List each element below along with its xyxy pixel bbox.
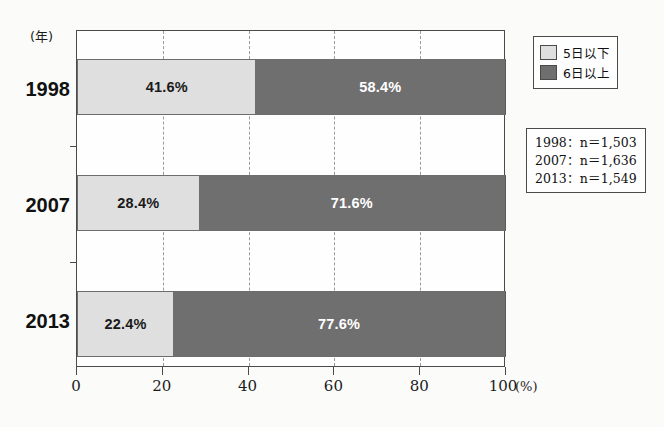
legend-label-5days-or-less: 5日以下 <box>563 43 610 62</box>
x-axis-label-20: 20 <box>152 377 171 395</box>
y-axis-unit-label: (年) <box>30 26 53 45</box>
legend-swatch-light-icon <box>540 45 557 60</box>
sample-size-1998: 1998：n＝1,503 <box>535 134 637 152</box>
bar-label-1998-light: 41.6% <box>146 79 188 95</box>
sample-size-2013: 2013：n＝1,549 <box>535 170 637 188</box>
sample-size-2007: 2007：n＝1,636 <box>535 152 637 170</box>
x-axis-label-0: 0 <box>71 377 81 395</box>
y-axis-label-2007: 2007 <box>8 194 70 217</box>
bar-row-2007: 28.4% 71.6% <box>77 175 506 231</box>
x-axis-tick-100 <box>505 367 506 375</box>
x-axis-tick-0 <box>76 367 77 375</box>
chart-container: (年) 1998 2007 2013 41.6% 58.4% 28.4% 71.… <box>0 0 664 427</box>
legend-item-6days-or-more: 6日以上 <box>540 63 610 82</box>
y-axis-label-1998: 1998 <box>8 78 70 101</box>
bar-row-2013: 22.4% 77.6% <box>77 291 506 357</box>
y-axis-label-2013: 2013 <box>8 310 70 333</box>
legend: 5日以下 6日以上 <box>533 36 618 89</box>
x-axis-label-60: 60 <box>324 377 343 395</box>
sample-size-box: 1998：n＝1,503 2007：n＝1,636 2013：n＝1,549 <box>526 128 646 193</box>
x-axis-tick-60 <box>333 367 334 375</box>
x-axis-label-100: 100 <box>489 377 518 395</box>
bar-label-2007-dark: 71.6% <box>331 195 373 211</box>
legend-swatch-dark-icon <box>540 65 557 80</box>
bar-segment-2013-light: 22.4% <box>77 291 173 357</box>
bar-segment-2013-dark: 77.6% <box>173 291 506 357</box>
bar-segment-1998-dark: 58.4% <box>255 59 506 115</box>
bar-label-2013-dark: 77.6% <box>318 316 360 332</box>
bar-segment-2007-light: 28.4% <box>77 175 199 231</box>
bar-segment-2007-dark: 71.6% <box>199 175 506 231</box>
bar-label-1998-dark: 58.4% <box>359 79 401 95</box>
x-axis-unit-label: (%) <box>515 379 538 394</box>
bar-segment-1998-light: 41.6% <box>77 59 255 115</box>
legend-label-6days-or-more: 6日以上 <box>563 63 610 82</box>
legend-item-5days-or-less: 5日以下 <box>540 43 610 62</box>
plot-area: 41.6% 58.4% 28.4% 71.6% 22.4% 77.6% <box>76 30 505 367</box>
x-axis-label-80: 80 <box>410 377 429 395</box>
bar-label-2007-light: 28.4% <box>117 195 159 211</box>
bar-row-1998: 41.6% 58.4% <box>77 59 506 115</box>
x-axis-tick-80 <box>419 367 420 375</box>
bar-label-2013-light: 22.4% <box>104 316 146 332</box>
x-axis-tick-40 <box>248 367 249 375</box>
x-axis-tick-20 <box>162 367 163 375</box>
x-axis-label-40: 40 <box>238 377 257 395</box>
